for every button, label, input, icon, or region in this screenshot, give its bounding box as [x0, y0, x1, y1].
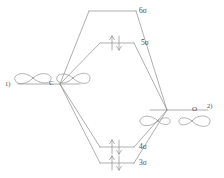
tie-line-c-to-5sigma	[60, 43, 100, 84]
mo-label-3sigma: 3σ	[139, 159, 147, 167]
orbital-carbon-outer	[15, 74, 51, 84]
mo-diagram-canvas: 6σ 5σ 4σ 3σ 1) C O 2)	[0, 0, 224, 178]
orbital-oxygen-outer	[179, 116, 210, 127]
tie-line-c-to-4sigma	[60, 84, 100, 147]
fragment-index-label-left: 1)	[5, 81, 10, 88]
tie-line-o-to-6sigma	[136, 11, 167, 110]
fragment-index-label-right: 2)	[207, 103, 212, 110]
tie-line-o-to-5sigma	[134, 43, 167, 110]
atom-label-carbon: C	[49, 80, 54, 87]
mo-label-6sigma: 6σ	[139, 7, 147, 15]
orbital-oxygen-inner	[140, 116, 170, 126]
atom-label-oxygen: O	[192, 106, 197, 113]
mo-label-5sigma: 5σ	[141, 39, 149, 47]
tie-line-c-to-3sigma	[60, 84, 100, 163]
mo-label-4sigma: 4σ	[139, 143, 147, 151]
mo-diagram-drawing	[0, 0, 224, 178]
